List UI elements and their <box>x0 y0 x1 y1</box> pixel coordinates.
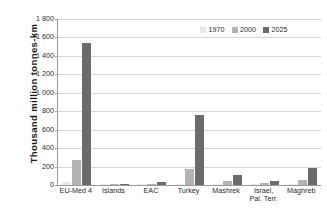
legend-swatch-icon <box>200 27 206 33</box>
y-axis-tick-label: 200 <box>22 163 54 170</box>
bar <box>223 181 232 185</box>
y-axis-tick-label: 1 200 <box>22 71 54 78</box>
legend-item[interactable]: 2000 <box>232 26 257 33</box>
legend-label: 1970 <box>209 26 225 33</box>
y-axis-tick-mark <box>55 185 58 186</box>
bar-chart: Thousand million tonnes-km 0200400600800… <box>0 0 327 215</box>
bar <box>250 184 259 185</box>
bar <box>157 182 166 185</box>
bar-group <box>133 19 171 185</box>
bar <box>137 184 146 185</box>
plot-area <box>57 19 321 186</box>
bar <box>147 184 156 185</box>
bar <box>195 115 204 185</box>
x-axis-tick-label: Mashrek <box>207 187 245 204</box>
bar <box>233 175 242 185</box>
bar-series-layer <box>58 19 321 185</box>
bar-group <box>171 19 209 185</box>
bar-group <box>246 19 284 185</box>
legend-item[interactable]: 1970 <box>200 26 225 33</box>
y-axis-tick-label: 600 <box>22 126 54 133</box>
bar <box>308 168 317 185</box>
bar <box>110 184 119 185</box>
x-axis-tick-label: Islands <box>95 187 133 204</box>
bar-group <box>283 19 321 185</box>
y-axis-tick-label: 0 <box>22 181 54 188</box>
bar <box>298 180 307 185</box>
legend-label: 2025 <box>272 26 288 33</box>
chart-legend: 197020002025 <box>200 26 288 33</box>
bar <box>185 169 194 185</box>
legend-swatch-icon <box>263 27 269 33</box>
bar <box>100 184 109 185</box>
x-axis-tick-label: EAC <box>132 187 170 204</box>
bar <box>72 160 81 185</box>
bar <box>270 181 279 185</box>
bar <box>260 183 269 185</box>
bar <box>213 184 222 185</box>
bar <box>288 184 297 185</box>
x-axis-tick-label: Maghreb <box>282 187 320 204</box>
bar-group <box>208 19 246 185</box>
y-axis-tick-label: 400 <box>22 145 54 152</box>
bar <box>120 184 129 185</box>
bar-group <box>96 19 134 185</box>
y-axis-tick-label: 1 000 <box>22 89 54 96</box>
y-axis-tick-labels: 02004006008001 0001 2001 4001 6001 800 <box>22 19 54 185</box>
bar <box>82 43 91 185</box>
bar <box>175 184 184 185</box>
x-axis-tick-label: Israel, Pal. Terr. <box>245 187 283 204</box>
y-axis-tick-label: 1 800 <box>22 15 54 22</box>
legend-label: 2000 <box>240 26 256 33</box>
bar <box>62 182 71 185</box>
bar-group <box>58 19 96 185</box>
y-axis-tick-label: 1 600 <box>22 34 54 41</box>
y-axis-tick-label: 1 400 <box>22 52 54 59</box>
legend-swatch-icon <box>232 27 238 33</box>
x-axis-tick-labels: EU-Med 4IslandsEACTurkeyMashrekIsrael, P… <box>57 187 320 204</box>
x-axis-tick-label: EU-Med 4 <box>57 187 95 204</box>
x-axis-tick-label: Turkey <box>170 187 208 204</box>
y-axis-tick-label: 800 <box>22 108 54 115</box>
legend-item[interactable]: 2025 <box>263 26 288 33</box>
